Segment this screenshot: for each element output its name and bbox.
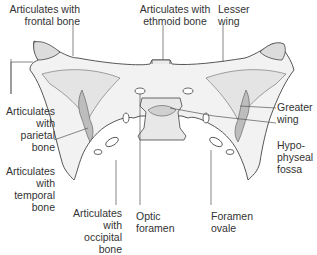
left-foramen-ovale: [104, 135, 120, 148]
right-foramen-spinosum: [226, 150, 234, 155]
right-foramen-ovale: [208, 135, 224, 148]
label-ethmoid-bone: Articulates with ethmoid bone: [130, 3, 220, 27]
label-parietal-bone: Articulates with parietal bone: [0, 105, 55, 153]
label-optic-foramen: Optic foramen: [136, 210, 175, 234]
right-optic-foramen: [183, 88, 193, 94]
label-lesser-wing: Lesser wing: [218, 3, 250, 27]
label-temporal-bone: Articulates with temporal bone: [0, 165, 55, 213]
left-optic-foramen: [135, 88, 145, 94]
ethmoid-spine: [152, 60, 170, 64]
sella-turcica: [138, 98, 186, 140]
label-foramen-ovale: Foramen ovale: [211, 210, 253, 234]
left-foramen-spinosum: [94, 150, 102, 155]
label-hypophyseal-fossa: Hypo- physeal fossa: [277, 139, 313, 175]
left-foramen-rotundum: [123, 113, 129, 123]
label-frontal-bone: Articulates with frontal bone: [2, 3, 80, 27]
label-occipital-bone: Articulates with occipital bone: [70, 207, 122, 255]
label-greater-wing: Greater wing: [277, 101, 313, 125]
